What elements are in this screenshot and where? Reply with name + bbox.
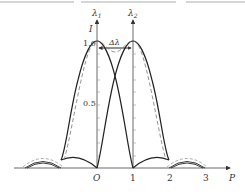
- y-tick-0.5: 0.5: [83, 99, 96, 108]
- x-axis-label: P: [228, 173, 236, 183]
- y-axis-label: I: [88, 24, 93, 34]
- outer-side-lobes-right: [169, 162, 205, 169]
- sum-intensity-curve: [64, 41, 166, 160]
- x-tick-origin: O: [93, 173, 101, 183]
- x-tick-2: 2: [167, 173, 173, 183]
- side-lobe: [61, 157, 97, 168]
- lambda1-label: λ1: [91, 8, 102, 19]
- y-tick-1.0: 1.0: [83, 39, 96, 48]
- x-tick-3: 3: [203, 173, 209, 183]
- x-tick-1: 1: [130, 173, 136, 183]
- lambda2-label: λ2: [127, 8, 138, 19]
- rayleigh-resolution-diagram: λ1 λ2 I Δλ 1.0 0.5 O 1 2 3 P: [0, 0, 245, 194]
- outer-side-lobes-left: [25, 162, 61, 169]
- delta-lambda-label: Δλ: [108, 38, 120, 47]
- side-lobe: [133, 157, 169, 168]
